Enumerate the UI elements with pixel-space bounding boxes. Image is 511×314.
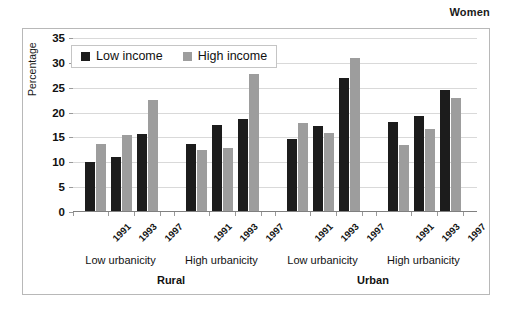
bar-low-income (238, 119, 248, 211)
chart-super-title: Women (449, 6, 490, 18)
x-axis-region-label: Urban (357, 274, 389, 286)
x-axis-group-tick-mark (376, 212, 377, 216)
x-axis-tick-mark (160, 212, 161, 216)
x-axis-urbanicity-label: Low urbanicity (85, 254, 155, 266)
x-axis-tick-mark (261, 212, 262, 216)
bar-low-income (212, 125, 222, 211)
bar-low-income (137, 134, 147, 211)
y-axis-tick-mark (69, 88, 73, 89)
bar-low-income (339, 78, 349, 211)
y-axis-tick-label: 25 (39, 82, 65, 94)
x-axis-tick-mark (209, 212, 210, 216)
legend-item-high-income: High income (183, 49, 267, 63)
legend-swatch-icon-high-income (183, 52, 192, 61)
x-axis-group-tick-mark (174, 212, 175, 216)
x-axis-urbanicity-label: Low urbanicity (287, 254, 357, 266)
x-axis-urbanicity-label: High urbanicity (185, 254, 258, 266)
y-axis-tick-mark (69, 137, 73, 138)
chart-root: Women Percentage 05101520253035 19911993… (0, 0, 511, 314)
bar-low-income (111, 157, 121, 211)
y-axis-tick-label: 0 (39, 206, 65, 218)
bar-high-income (324, 133, 334, 211)
bar-low-income (287, 139, 297, 211)
legend-item-low-income: Low income (81, 49, 163, 63)
bar-low-income (85, 162, 95, 211)
y-axis-tick-mark (69, 187, 73, 188)
y-axis-tick-label: 5 (39, 181, 65, 193)
bar-high-income (249, 74, 259, 211)
x-axis-region-label: Rural (157, 274, 185, 286)
legend-label-high-income: High income (198, 49, 267, 63)
bar-high-income (425, 129, 435, 211)
x-axis-tick-mark (463, 212, 464, 216)
x-axis-urbanicity-label: High urbanicity (387, 254, 460, 266)
y-axis-tick-mark (69, 162, 73, 163)
y-axis-tick-label: 20 (39, 107, 65, 119)
bar-low-income (414, 116, 424, 211)
legend-label-low-income: Low income (96, 49, 163, 63)
y-axis-tick-label: 35 (39, 32, 65, 44)
y-axis-tick-mark (69, 212, 73, 213)
x-axis-group-tick-mark (275, 212, 276, 216)
x-axis-tick-mark (362, 212, 363, 216)
bar-high-income (298, 123, 308, 211)
y-axis-tick-mark (69, 38, 73, 39)
y-axis-title: Percentage (26, 16, 38, 96)
bar-high-income (350, 58, 360, 211)
x-axis-tick-mark (411, 212, 412, 216)
y-axis-tick-mark (69, 113, 73, 114)
x-axis-group-tick-mark (73, 212, 74, 216)
x-axis-tick-mark (336, 212, 337, 216)
x-axis-tick-mark (134, 212, 135, 216)
y-axis-tick-label: 15 (39, 131, 65, 143)
x-axis-tick-mark (108, 212, 109, 216)
bar-low-income (186, 144, 196, 211)
bar-low-income (440, 90, 450, 211)
bar-high-income (451, 98, 461, 211)
y-axis-tick-label: 30 (39, 57, 65, 69)
chart-legend: Low income High income (71, 45, 277, 68)
x-axis-tick-mark (437, 212, 438, 216)
bar-high-income (96, 144, 106, 211)
bar-low-income (388, 122, 398, 211)
bar-high-income (197, 150, 207, 211)
bar-high-income (399, 145, 409, 211)
y-axis-tick-label: 10 (39, 156, 65, 168)
bar-low-income (313, 126, 323, 212)
bar-high-income (122, 135, 132, 211)
bar-high-income (223, 148, 233, 211)
bar-high-income (148, 100, 158, 211)
x-axis-tick-mark (235, 212, 236, 216)
legend-swatch-icon-low-income (81, 52, 90, 61)
x-axis-tick-mark (310, 212, 311, 216)
